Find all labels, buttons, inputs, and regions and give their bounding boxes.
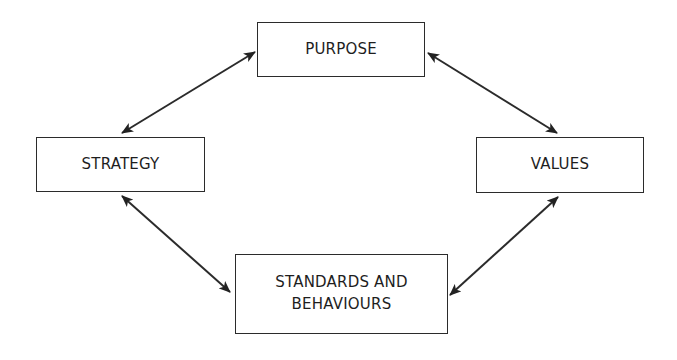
node-strategy-label: STRATEGY <box>82 154 160 176</box>
arrow-strategy-purpose <box>122 52 255 133</box>
node-standards-and-behaviours: STANDARDS AND BEHAVIOURS <box>235 254 448 334</box>
node-values-label: VALUES <box>531 154 589 176</box>
arrow-values-standards <box>450 197 558 295</box>
node-strategy: STRATEGY <box>36 137 205 192</box>
node-values: VALUES <box>476 137 644 193</box>
arrow-purpose-values <box>428 53 557 133</box>
node-standards-label-line-2: BEHAVIOURS <box>292 294 392 316</box>
node-purpose: PURPOSE <box>257 22 425 77</box>
arrow-standards-strategy <box>122 196 230 292</box>
node-purpose-label: PURPOSE <box>305 39 377 61</box>
node-standards-label-line-1: STANDARDS AND <box>275 272 407 294</box>
